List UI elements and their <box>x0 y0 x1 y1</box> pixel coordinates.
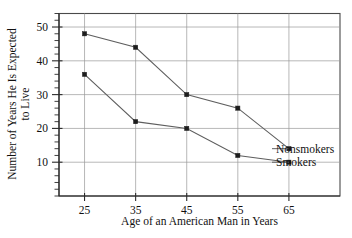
y-tick-label: 10 <box>37 156 49 168</box>
data-point-marker <box>82 72 86 76</box>
vertical-gridlines <box>85 14 289 197</box>
x-axis: 2535455565 <box>59 193 340 216</box>
data-point-marker <box>185 93 189 97</box>
y-axis: 1020304050 <box>37 14 63 197</box>
y-axis-ticks <box>52 14 63 197</box>
chart-canvas: 1020304050 2535455565 NonsmokersSmokers … <box>0 0 352 238</box>
plot-frame <box>59 14 340 197</box>
y-tick-label: 50 <box>37 21 49 33</box>
data-point-marker <box>134 120 138 124</box>
x-axis-title: Age of an American Man in Years <box>121 215 278 228</box>
y-tick-label: 30 <box>37 89 49 101</box>
y-tick-label: 20 <box>37 122 49 134</box>
x-tick-label: 65 <box>283 204 295 216</box>
legend-label-nonsmokers: Nonsmokers <box>276 143 335 155</box>
legend-layer: NonsmokersSmokers <box>272 143 335 169</box>
y-axis-title-line1: Number of Years He Is Expected <box>6 28 19 180</box>
x-tick-label: 25 <box>79 204 91 216</box>
plot-area-border <box>59 14 340 197</box>
data-point-marker <box>185 126 189 130</box>
y-axis-tick-labels: 1020304050 <box>37 21 49 168</box>
x-axis-ticks <box>85 193 289 201</box>
data-point-marker <box>82 32 86 36</box>
life-expectancy-line-chart: 1020304050 2535455565 NonsmokersSmokers … <box>0 0 352 238</box>
data-point-marker <box>134 45 138 49</box>
data-point-marker <box>236 106 240 110</box>
y-tick-label: 40 <box>37 55 49 67</box>
data-point-marker <box>236 153 240 157</box>
y-axis-title-line2: to Live <box>19 88 31 121</box>
legend-label-smokers: Smokers <box>276 156 317 168</box>
